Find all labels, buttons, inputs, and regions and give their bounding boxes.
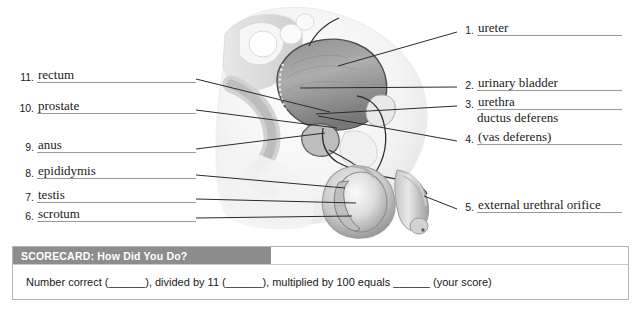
scorecard-box: SCORECARD: How Did You Do? Number correc… (12, 246, 629, 300)
label-term-external-urethral-orifice[interactable]: external urethral orifice (477, 198, 622, 213)
label-number-2: 2. (462, 80, 474, 92)
label-number-6: 6. (14, 211, 34, 223)
label-number-3: 3. (462, 99, 474, 111)
label-term-scrotum[interactable]: scrotum (37, 207, 196, 222)
label-number-10: 10. (14, 103, 34, 115)
vertebral-foramen (249, 31, 277, 57)
label-row-10[interactable]: 10. prostate (14, 97, 196, 114)
label-row-8[interactable]: 8. epididymis (14, 162, 196, 179)
scorecard-body-text: Number correct (______), divided by 11 (… (13, 265, 628, 288)
coccyx-segment (296, 14, 314, 30)
label-term-testis[interactable]: testis (37, 188, 196, 203)
label-number-8: 8. (14, 168, 34, 180)
label-number-9: 9. (14, 142, 34, 154)
label-row-3[interactable]: 3. urethra (462, 93, 622, 110)
scorecard-header: SCORECARD: How Did You Do? (13, 247, 628, 265)
label-number-7: 7. (14, 192, 34, 204)
glans-penis-shape (410, 218, 428, 234)
seminal-vesicle-shape (366, 95, 395, 126)
label-row-4[interactable]: 4. (vas deferens) (462, 128, 622, 145)
label-number-1: 1. (462, 25, 474, 37)
label-row-9[interactable]: 9. anus (14, 136, 196, 153)
label-row-6[interactable]: 6. scrotum (14, 205, 196, 222)
label-row-1[interactable]: 1. ureter (462, 19, 622, 36)
label-row-7[interactable]: 7. testis (14, 186, 196, 203)
label-number-4: 4. (462, 134, 474, 146)
worksheet-page: 11. rectum 10. prostate 9. anus 8. epidi… (0, 0, 639, 316)
label-term-anus[interactable]: anus (37, 138, 196, 153)
label-term-ductus-deferens: ductus deferens (477, 111, 558, 125)
external-urethral-orifice-point (421, 228, 424, 231)
label-term-urethra[interactable]: urethra (477, 95, 622, 110)
label-number-11: 11. (14, 72, 34, 84)
label-term-rectum[interactable]: rectum (37, 68, 196, 83)
prostate-shape (302, 124, 339, 157)
label-term-prostate[interactable]: prostate (37, 99, 196, 114)
label-row-11[interactable]: 11. rectum (14, 66, 196, 83)
anatomy-figure (205, 0, 450, 240)
label-term-ureter[interactable]: ureter (477, 21, 622, 36)
scorecard-title: SCORECARD: How Did You Do? (21, 250, 187, 262)
label-term-vas-deferens[interactable]: (vas deferens) (477, 130, 622, 145)
label-number-5: 5. (462, 202, 474, 214)
label-row-5[interactable]: 5. external urethral orifice (462, 196, 622, 213)
label-term-epididymis[interactable]: epididymis (37, 164, 196, 179)
label-row-2[interactable]: 2. urinary bladder (462, 74, 622, 91)
label-term-urinary-bladder[interactable]: urinary bladder (477, 76, 622, 91)
